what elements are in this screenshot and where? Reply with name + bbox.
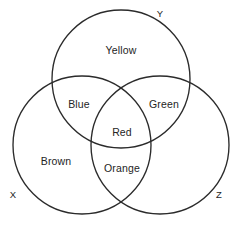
venn-circles-group [0, 0, 241, 231]
region-label-green: Green [149, 98, 179, 110]
region-label-red: Red [112, 126, 132, 138]
region-label-brown: Brown [41, 155, 72, 167]
region-label-yellow: Yellow [106, 44, 137, 56]
region-label-orange: Orange [104, 162, 140, 174]
region-label-blue: Blue [68, 98, 90, 110]
circle-set-z [91, 76, 229, 214]
set-label-z: Z [216, 189, 222, 200]
venn-diagram: Y X Z Yellow Blue Green Red Brown Orange [0, 0, 241, 231]
circle-set-x [13, 76, 151, 214]
set-label-y: Y [157, 8, 164, 19]
set-label-x: X [10, 189, 17, 200]
